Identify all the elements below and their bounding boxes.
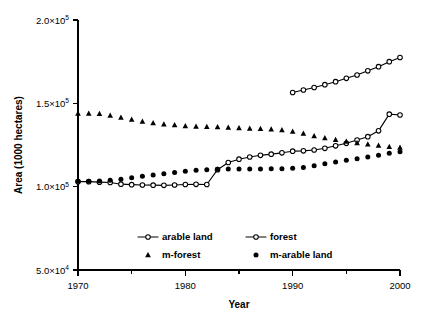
data-point-forest — [344, 76, 349, 81]
data-point-arable-land — [140, 183, 145, 188]
data-point-arable-land — [119, 182, 124, 187]
data-point-arable-land — [376, 129, 381, 134]
data-point-m-forest — [311, 133, 317, 138]
data-point-m-forest — [258, 126, 264, 131]
data-point-forest — [366, 69, 371, 74]
chart-figure: 5.0×1041.0×1051.5×1052.0×105197019801990… — [0, 0, 428, 323]
data-point-m-arable-land — [247, 167, 252, 172]
data-point-arable-land — [301, 149, 306, 154]
data-point-m-arable-land — [183, 169, 188, 174]
data-point-arable-land — [151, 183, 156, 188]
x-axis-tick-label: 2000 — [389, 280, 410, 291]
data-point-m-forest — [193, 123, 199, 128]
data-point-arable-land — [205, 182, 210, 187]
data-point-arable-land — [194, 182, 199, 187]
data-point-arable-land — [398, 113, 403, 118]
data-point-forest — [323, 82, 328, 87]
data-point-m-arable-land — [204, 167, 209, 172]
data-point-m-forest — [204, 124, 210, 129]
data-point-m-forest — [161, 121, 167, 126]
data-point-m-arable-land — [172, 170, 177, 175]
data-point-m-arable-land — [279, 166, 284, 171]
data-point-m-arable-land — [355, 156, 360, 161]
data-point-m-arable-land — [226, 167, 231, 172]
data-point-m-forest — [333, 137, 339, 142]
data-point-m-arable-land — [215, 167, 220, 172]
data-point-arable-land — [226, 160, 231, 165]
data-point-m-arable-land — [258, 167, 263, 172]
data-point-m-forest — [97, 111, 103, 116]
data-point-m-arable-land — [376, 153, 381, 158]
data-point-m-arable-land — [365, 155, 370, 160]
data-point-m-arable-land — [333, 160, 338, 165]
data-point-arable-land — [162, 183, 167, 188]
x-axis-tick-label: 1980 — [175, 280, 196, 291]
data-point-m-forest — [236, 125, 242, 130]
data-point-arable-land — [129, 182, 134, 187]
data-point-m-forest — [150, 120, 156, 125]
data-point-arable-land — [269, 152, 274, 157]
data-point-arable-land — [290, 149, 295, 154]
data-point-arable-land — [366, 134, 371, 139]
legend-label-arable-land: arable land — [162, 231, 213, 242]
data-point-m-forest — [386, 144, 392, 149]
data-point-m-arable-land — [312, 163, 317, 168]
data-point-m-forest — [301, 130, 307, 135]
data-point-forest — [301, 88, 306, 93]
data-point-m-forest — [183, 123, 189, 128]
data-point-m-forest — [225, 125, 231, 130]
legend-marker-filled-triangle — [145, 252, 151, 257]
legend-marker-open-circle — [146, 235, 151, 240]
data-point-m-forest — [129, 117, 135, 122]
data-point-m-forest — [365, 141, 371, 146]
y-axis-tick-label: 5.0×104 — [36, 264, 69, 275]
data-point-arable-land — [323, 146, 328, 151]
series-line-forest — [293, 58, 400, 93]
data-point-arable-land — [172, 183, 177, 188]
data-point-arable-land — [237, 157, 242, 162]
chart-canvas: 5.0×1041.0×1051.5×1052.0×105197019801990… — [0, 0, 428, 323]
data-point-m-arable-land — [76, 179, 81, 184]
data-point-m-arable-land — [237, 167, 242, 172]
data-point-m-forest — [140, 118, 146, 123]
legend-label-m-forest: m-forest — [162, 249, 201, 260]
legend-label-forest: forest — [270, 231, 297, 242]
data-point-forest — [355, 73, 360, 78]
data-point-m-forest — [290, 128, 296, 133]
data-point-m-forest — [107, 112, 113, 117]
data-point-m-arable-land — [398, 149, 403, 154]
legend-marker-filled-circle — [254, 253, 259, 258]
axis-lines — [78, 20, 400, 270]
data-point-arable-land — [247, 155, 252, 160]
data-point-m-forest — [376, 142, 382, 147]
data-point-m-arable-land — [86, 179, 91, 184]
data-point-m-arable-land — [108, 178, 113, 183]
data-point-m-forest — [268, 126, 274, 131]
y-axis-tick-label: 1.5×105 — [36, 97, 69, 108]
data-point-m-arable-land — [151, 173, 156, 178]
data-point-m-forest — [215, 124, 221, 129]
data-point-m-arable-land — [301, 165, 306, 170]
data-point-m-arable-land — [290, 166, 295, 171]
data-point-m-forest — [247, 125, 253, 130]
data-point-m-arable-land — [322, 161, 327, 166]
data-point-m-arable-land — [161, 171, 166, 176]
data-point-m-forest — [118, 115, 124, 120]
data-point-m-arable-land — [194, 168, 199, 173]
data-point-arable-land — [280, 151, 285, 156]
data-point-forest — [290, 90, 295, 95]
y-axis-title: Area (1000 hectares) — [13, 96, 24, 194]
data-point-m-forest — [86, 110, 92, 115]
data-point-m-arable-land — [387, 151, 392, 156]
data-point-forest — [333, 79, 338, 84]
data-point-m-arable-land — [97, 179, 102, 184]
data-point-m-forest — [279, 127, 285, 132]
data-point-arable-land — [183, 182, 188, 187]
data-point-forest — [312, 85, 317, 90]
data-point-m-forest — [75, 110, 81, 115]
data-point-arable-land — [312, 148, 317, 153]
data-point-m-forest — [344, 138, 350, 143]
data-point-forest — [387, 59, 392, 64]
data-point-forest — [398, 55, 403, 60]
y-axis-tick-label: 2.0×105 — [36, 14, 69, 25]
